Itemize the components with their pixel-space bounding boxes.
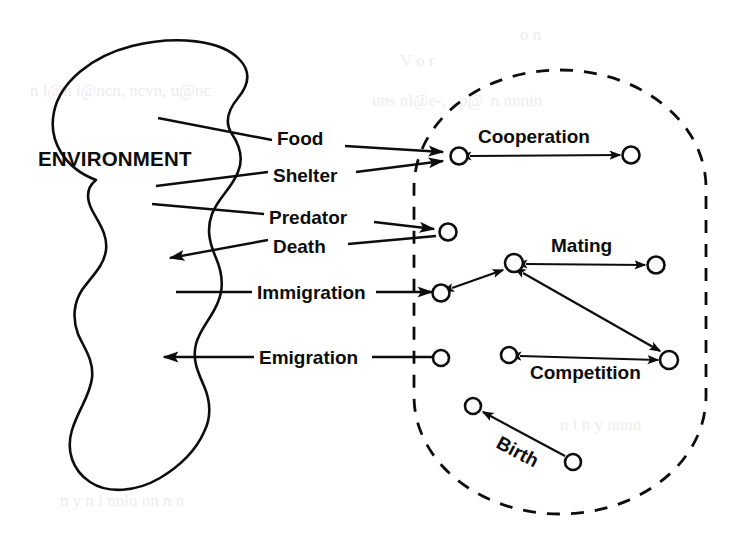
svg-text:V o r: V o r [400, 51, 435, 70]
svg-text:uns nl@e-, , p@ n nnnin: uns nl@e-, , p@ n nnnin [372, 91, 543, 110]
node-mating-right [648, 257, 665, 274]
svg-text:n y n i nnlu nn n n: n y n i nnlu nn n n [60, 491, 185, 510]
node-cooperation-right [623, 147, 640, 164]
svg-text:n i n y nnnn: n i n y nnnn [560, 415, 642, 434]
diagram-canvas: n l@n i@ncn, ncvn, u@nc V o r uns nl@e-,… [0, 0, 739, 543]
svg-text:o n: o n [520, 25, 542, 44]
flow-predator-label: Predator [269, 207, 348, 228]
node-competition-right [660, 351, 678, 369]
svg-text:n l@n i@ncn, ncvn, u@nc: n l@n i@ncn, ncvn, u@nc [30, 81, 212, 100]
flow-emigration-label: Emigration [259, 347, 358, 368]
environment-label: ENVIRONMENT [38, 147, 192, 170]
flow-immigration-label: Immigration [257, 282, 366, 303]
node-birth-source [565, 454, 581, 470]
node-cooperation-left [451, 148, 468, 165]
population-environment-diagram: n l@n i@ncn, ncvn, u@nc V o r uns nl@e-,… [0, 0, 739, 543]
node-emigration [433, 350, 449, 366]
interaction-mating-label: Mating [551, 235, 612, 256]
node-predator [440, 224, 457, 241]
interaction-cooperation-label: Cooperation [478, 126, 590, 147]
flow-shelter-label: Shelter [273, 165, 338, 186]
node-mating-hub [505, 254, 523, 272]
node-birth-target [465, 398, 481, 414]
flow-food-label: Food [277, 128, 323, 149]
node-competition-left [501, 347, 517, 363]
interaction-cooperation-arrow [470, 155, 620, 156]
interaction-mating-arrow [526, 264, 645, 265]
node-immigration [433, 285, 450, 302]
interaction-competition-label: Competition [530, 362, 641, 383]
flow-death-label: Death [273, 236, 326, 257]
